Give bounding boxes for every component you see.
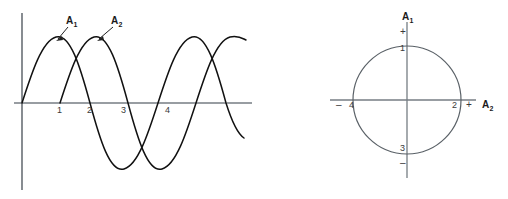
arrow-a1	[58, 27, 68, 39]
circle-axis-label-a2: A2	[482, 100, 494, 112]
curve-label-a2: A2	[111, 16, 123, 28]
arrow-a2	[99, 27, 113, 39]
curve-label-a2-sub: 2	[118, 21, 122, 28]
circle-axis-label-a1: A1	[402, 12, 414, 24]
circle-top-sign: +	[400, 27, 406, 37]
figure-svg	[0, 0, 508, 199]
x-tick-label-4: 4	[165, 106, 170, 115]
circle-point-label-2: 2	[452, 101, 457, 110]
circle-point-label-3: 3	[400, 144, 405, 153]
curve-label-a1: A1	[66, 16, 78, 28]
circle-right-sign: +	[466, 100, 472, 110]
circle-axis-label-a2-sub: 2	[489, 105, 493, 112]
x-tick-label-2: 2	[87, 106, 92, 115]
circle-axis-label-a1-sub: 1	[409, 17, 413, 24]
x-tick-label-3: 3	[121, 106, 126, 115]
circle-bottom-sign: –	[400, 158, 406, 168]
circle-point-label-1: 1	[400, 44, 405, 53]
circle-left-sign: –	[336, 100, 342, 110]
curve-label-a1-sub: 1	[73, 21, 77, 28]
figure-container: A1 A2 1 2 3 4 A1 + 1 2 + A2 – 4 3 –	[0, 0, 508, 199]
circle-point-label-4: 4	[349, 101, 354, 110]
x-tick-label-1: 1	[57, 106, 62, 115]
waveform-plot	[14, 13, 252, 190]
